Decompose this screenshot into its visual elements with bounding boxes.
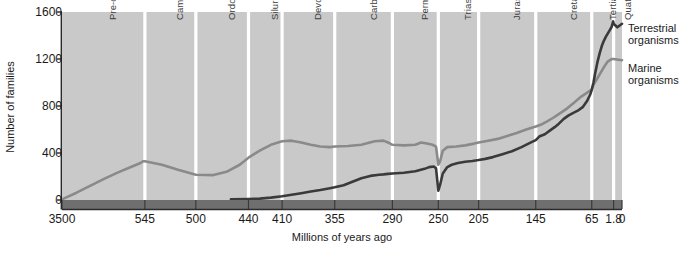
x-tick-440: 440 bbox=[238, 212, 258, 226]
x-tick-545: 545 bbox=[135, 212, 155, 226]
legend-item-terrestrial: Terrestrialorganisms bbox=[628, 22, 679, 46]
period-label-triassic: Triassic bbox=[462, 0, 473, 20]
period-label-ordovician: Ordovician bbox=[226, 0, 237, 20]
period-label-pre-cambrian: Pre-cambrian bbox=[107, 0, 118, 20]
x-tick-500: 500 bbox=[186, 212, 206, 226]
y-tick-800: 800 bbox=[22, 99, 62, 113]
y-tick-0: 0 bbox=[22, 193, 62, 207]
x-tick-65: 65 bbox=[585, 212, 598, 226]
period-label-cretaceous: Cretaceous bbox=[568, 0, 579, 20]
period-label-tertiary: Tertiary bbox=[607, 0, 618, 20]
period-label-carboniferous: Carboniferous bbox=[368, 0, 379, 20]
y-tick-1200: 1200 bbox=[22, 52, 62, 66]
y-tick-1600: 1600 bbox=[22, 5, 62, 19]
legend-item-marine: Marineorganisms bbox=[628, 62, 679, 86]
x-tick-3500: 3500 bbox=[49, 212, 76, 226]
x-tick-0: 0 bbox=[619, 212, 626, 226]
x-tick-290: 290 bbox=[382, 212, 402, 226]
x-tick-355: 355 bbox=[325, 212, 345, 226]
legend-label-line1: Terrestrial bbox=[628, 22, 679, 34]
x-tick-410: 410 bbox=[272, 212, 292, 226]
period-label-devonian: Devonian bbox=[312, 0, 323, 20]
y-tick-400: 400 bbox=[22, 146, 62, 160]
x-tick-250: 250 bbox=[428, 212, 448, 226]
legend-label-line2: organisms bbox=[628, 34, 679, 46]
legend-label-line2: organisms bbox=[628, 74, 679, 86]
x-tick-205: 205 bbox=[469, 212, 489, 226]
period-label-silurian: Silurian bbox=[269, 0, 280, 20]
period-label-permian: Permian bbox=[419, 0, 430, 20]
y-axis-title: Number of families bbox=[4, 52, 16, 162]
x-axis-title: Millions of years ago bbox=[60, 231, 624, 243]
period-label-jurassic: Jurassic bbox=[511, 0, 522, 20]
legend-label-line1: Marine bbox=[628, 62, 679, 74]
period-label-quaternary: Quaternary bbox=[622, 0, 633, 20]
period-label-cambrian: Cambrian bbox=[174, 0, 185, 20]
x-tick-145: 145 bbox=[526, 212, 546, 226]
